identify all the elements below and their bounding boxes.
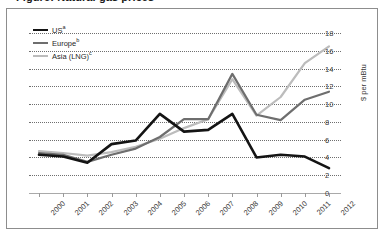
x-tick-label-2011: 2011 [315, 199, 333, 217]
x-tick-label-2005: 2005 [170, 199, 188, 217]
x-tick-mark-2008 [232, 193, 233, 197]
x-tick-label-2007: 2007 [218, 199, 236, 217]
y-tick-label-18: 18 [325, 29, 333, 38]
x-tick-label-2006: 2006 [194, 199, 212, 217]
chart-legend: USaEuropebAsia (LNG)c [33, 23, 153, 62]
legend-swatch-icon [33, 55, 48, 57]
x-tick-label-2001: 2001 [73, 199, 91, 217]
legend-swatch-icon [33, 42, 48, 44]
clipped-title-strip: Figure: Natural gas prices [0, 0, 386, 8]
y-tick-label-2: 2 [325, 171, 329, 180]
legend-item-us[interactable]: USa [33, 23, 153, 36]
y-tick-label-8: 8 [325, 117, 329, 126]
legend-swatch-icon [33, 29, 48, 31]
y-tick-label-12: 12 [325, 82, 333, 91]
x-tick-mark-2006 [184, 193, 185, 197]
x-tick-label-2000: 2000 [49, 199, 67, 217]
x-tick-label-2010: 2010 [291, 199, 309, 217]
x-tick-mark-2007 [208, 193, 209, 197]
series-line-asia-lng [39, 46, 329, 155]
x-tick-mark-2005 [160, 193, 161, 197]
x-tick-label-2009: 2009 [266, 199, 284, 217]
x-tick-mark-2009 [257, 193, 258, 197]
legend-label: USa [52, 24, 65, 35]
x-tick-label-2012: 2012 [339, 199, 357, 217]
x-tick-mark-2002 [87, 193, 88, 197]
x-tick-mark-2004 [136, 193, 137, 197]
y-tick-label-6: 6 [325, 135, 329, 144]
x-tick-mark-2011 [305, 193, 306, 197]
x-tick-mark-2012 [329, 193, 330, 197]
x-tick-mark-2003 [112, 193, 113, 197]
chart-frame: 024681012141618 $ per mBtu 2000200120022… [6, 8, 378, 229]
page-title: Figure: Natural gas prices [16, 0, 154, 3]
x-tick-label-2002: 2002 [97, 199, 115, 217]
x-tick-mark-2000 [39, 193, 40, 197]
y-tick-label-10: 10 [325, 100, 333, 109]
y-tick-label-14: 14 [325, 64, 333, 73]
x-tick-label-2004: 2004 [146, 199, 164, 217]
legend-label: Asia (LNG)c [52, 50, 92, 61]
series-line-europe [39, 74, 329, 162]
legend-item-asia-lng[interactable]: Asia (LNG)c [33, 49, 153, 62]
legend-label: Europeb [52, 37, 79, 48]
x-tick-label-2008: 2008 [242, 199, 260, 217]
y-tick-label-4: 4 [325, 153, 329, 162]
chart-page: Figure: Natural gas prices 0246810121416… [0, 0, 386, 243]
y-tick-label-16: 16 [325, 46, 333, 55]
y-axis-label: $ per mBtu [359, 64, 368, 101]
legend-item-europe[interactable]: Europeb [33, 36, 153, 49]
x-tick-mark-2010 [281, 193, 282, 197]
x-tick-label-2003: 2003 [121, 199, 139, 217]
x-tick-mark-2001 [63, 193, 64, 197]
